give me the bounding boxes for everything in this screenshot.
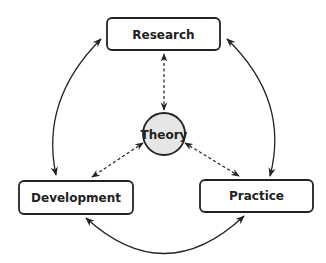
node-development: Development — [19, 181, 133, 214]
node-practice-label: Practice — [229, 189, 284, 203]
node-development-label: Development — [31, 191, 121, 205]
edge-research-practice — [227, 39, 275, 176]
cycle-diagram: Research Theory Development Practice — [0, 0, 326, 263]
node-theory-label: Theory — [141, 128, 188, 142]
edge-theory-practice — [185, 143, 239, 176]
node-practice: Practice — [200, 180, 313, 212]
node-research-label: Research — [132, 28, 194, 42]
edge-development-practice — [86, 216, 244, 254]
node-theory: Theory — [141, 113, 188, 155]
edge-research-development — [53, 39, 101, 175]
edge-theory-development — [92, 143, 143, 177]
node-research: Research — [107, 18, 220, 50]
